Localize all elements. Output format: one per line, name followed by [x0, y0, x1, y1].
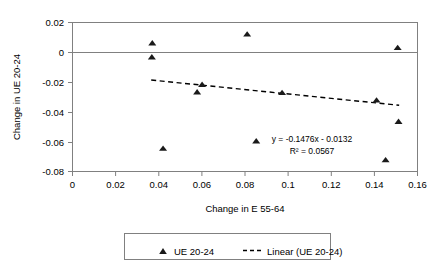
scatter-chart: 0.02 0 -0.02 -0.04 -0.06 -0.08 Change in…: [0, 0, 445, 270]
data-point-marker: [252, 138, 260, 143]
data-point-marker: [373, 97, 381, 102]
x-axis-tick-labels: 0 0.02 0.04 0.06 0.08 0.1 0.12 0.14 0.16: [70, 179, 427, 190]
legend-label-series: UE 20-24: [174, 246, 214, 257]
chart-canvas: 0.02 0 -0.02 -0.04 -0.06 -0.08 Change in…: [0, 0, 445, 270]
y-tick-label: -0.08: [42, 166, 64, 177]
x-tick-label: 0.16: [408, 179, 427, 190]
data-point-marker: [394, 45, 402, 50]
x-tick-label: 0.14: [365, 179, 384, 190]
data-point-marker: [148, 40, 156, 45]
x-tick-label: 0.12: [322, 179, 341, 190]
data-point-marker: [395, 119, 403, 124]
x-tick-label: 0.06: [193, 179, 212, 190]
data-point-marker: [243, 31, 251, 36]
x-tick-label: 0.04: [150, 179, 169, 190]
legend-label-trendline: Linear (UE 20-24): [267, 246, 343, 257]
plot-area-border: [73, 23, 418, 172]
x-tick-label: 0.02: [106, 179, 125, 190]
x-tick-label: 0.08: [236, 179, 255, 190]
chart-legend: UE 20-24 Linear (UE 20-24): [125, 234, 343, 260]
equation-annotation: y = -0.1476x - 0.0132: [272, 134, 353, 144]
data-point-marker: [198, 82, 206, 87]
y-axis-title: Change in UE 20-24: [11, 54, 22, 140]
data-point-marker: [193, 89, 201, 94]
x-tick-label: 0: [70, 179, 75, 190]
y-axis-tick-labels: 0.02 0 -0.02 -0.04 -0.06 -0.08: [42, 17, 64, 177]
data-point-marker: [159, 145, 167, 150]
data-point-marker: [148, 54, 156, 59]
data-point-marker: [382, 157, 390, 162]
y-axis-ticks: [68, 23, 73, 172]
x-tick-label: 0.1: [281, 179, 294, 190]
y-tick-label: -0.04: [42, 107, 64, 118]
r-squared-annotation: R² = 0.0567: [290, 146, 335, 156]
x-axis-title: Change in E 55-64: [205, 203, 284, 214]
y-tick-label: 0.02: [46, 17, 65, 28]
legend-triangle-icon: [159, 248, 167, 254]
y-tick-label: 0: [59, 47, 64, 58]
x-axis-ticks: [73, 172, 418, 177]
y-tick-label: -0.02: [42, 77, 64, 88]
linear-trendline: [151, 80, 399, 105]
y-tick-label: -0.06: [42, 137, 64, 148]
